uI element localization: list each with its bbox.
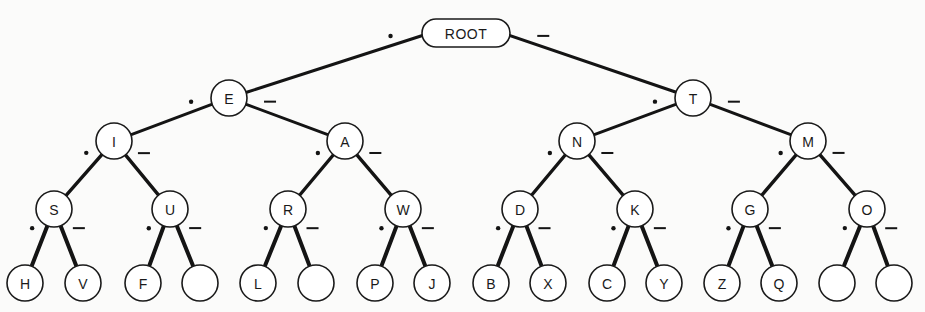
dot-symbol-icon (843, 226, 847, 230)
node-label: R (283, 202, 293, 218)
node-label: O (862, 202, 873, 218)
node-t: T (675, 80, 711, 116)
node-label: S (49, 202, 58, 218)
node-empty (182, 265, 218, 301)
node-label: A (340, 134, 350, 150)
edge-o-to-o_dash (873, 225, 888, 267)
node-circle (819, 265, 855, 301)
node-label: Q (774, 276, 785, 292)
edge-root-to-t (508, 35, 677, 93)
node-b: B (473, 265, 509, 301)
dash-symbol-icon (73, 227, 85, 229)
dot-symbol-icon (189, 99, 193, 103)
edge-e-to-i (130, 104, 213, 135)
node-r: R (270, 191, 306, 227)
edge-root-to-e (245, 35, 424, 93)
node-label: K (630, 202, 640, 218)
edge-w-to-p (381, 225, 397, 267)
node-w: W (385, 191, 421, 227)
node-label: L (254, 276, 262, 292)
node-q: Q (761, 265, 797, 301)
node-label: W (396, 202, 410, 218)
node-label: G (745, 202, 756, 218)
edge-u-to-f (149, 225, 164, 267)
edge-i-to-u (125, 154, 159, 196)
node-circle (182, 265, 218, 301)
node-empty (298, 265, 334, 301)
node-label: C (602, 276, 612, 292)
edge-a-to-r (299, 154, 334, 196)
dash-symbol-icon (728, 101, 740, 103)
node-empty (819, 265, 855, 301)
node-label: D (515, 202, 525, 218)
dash-symbol-icon (264, 101, 276, 103)
node-label: X (543, 276, 553, 292)
root-node: ROOT (422, 19, 510, 47)
edge-w-to-j (409, 225, 426, 267)
edge-d-to-b (497, 225, 514, 267)
node-circle (298, 265, 334, 301)
node-label: T (689, 91, 698, 107)
node-m: M (790, 123, 826, 159)
node-p: P (357, 265, 393, 301)
node-label: Y (659, 276, 669, 292)
edge-s-to-v (60, 225, 77, 267)
edge-g-to-z (728, 225, 744, 267)
node-s: S (36, 191, 72, 227)
node-label: I (112, 134, 116, 150)
dash-symbol-icon (885, 227, 897, 229)
node-x: X (530, 265, 566, 301)
node-d: D (502, 191, 538, 227)
edge-t-to-m (709, 104, 792, 135)
edge-e-to-a (245, 104, 329, 135)
node-k: K (617, 191, 653, 227)
node-c: C (589, 265, 625, 301)
dot-symbol-icon (264, 226, 268, 230)
node-label: J (429, 276, 436, 292)
node-label: N (572, 134, 582, 150)
node-l: L (240, 265, 276, 301)
dash-symbol-icon (138, 152, 150, 154)
dot-symbol-icon (653, 99, 657, 103)
node-label: H (20, 276, 30, 292)
edge-m-to-o (819, 154, 856, 196)
node-label: V (78, 276, 88, 292)
node-label: B (486, 276, 495, 292)
dot-symbol-icon (548, 151, 552, 155)
dot-symbol-icon (30, 226, 34, 230)
edge-g-to-q (756, 225, 773, 267)
dot-symbol-icon (726, 226, 730, 230)
dot-symbol-icon (379, 226, 383, 230)
dash-symbol-icon (769, 227, 781, 229)
dot-symbol-icon (388, 34, 392, 38)
node-label: U (165, 202, 175, 218)
node-label: M (802, 134, 814, 150)
dash-symbol-icon (189, 227, 201, 229)
dash-symbol-icon (654, 227, 666, 229)
edge-k-to-c (613, 225, 629, 267)
tree-edges (31, 35, 888, 267)
node-label: P (370, 276, 379, 292)
tree-nodes: ETIANMSURWDKGOHVFLPJBXCYZQ (7, 80, 912, 301)
node-g: G (732, 191, 768, 227)
dot-symbol-icon (778, 151, 782, 155)
node-z: Z (704, 265, 740, 301)
node-circle (876, 265, 912, 301)
root-label: ROOT (445, 26, 487, 42)
dot-symbol-icon (84, 151, 88, 155)
edge-k-to-y (641, 225, 658, 267)
dash-symbol-icon (369, 152, 381, 154)
node-o: O (849, 191, 885, 227)
edge-d-to-x (526, 225, 542, 267)
edge-t-to-n (593, 104, 677, 135)
dot-symbol-icon (611, 226, 615, 230)
dot-symbol-icon (496, 226, 500, 230)
node-label: Z (718, 276, 727, 292)
node-j: J (414, 265, 450, 301)
node-v: V (65, 265, 101, 301)
edge-n-to-k (588, 154, 624, 196)
dash-symbol-icon (537, 35, 549, 37)
edge-i-to-s (65, 154, 103, 197)
node-e: E (211, 80, 247, 116)
node-label: F (139, 276, 148, 292)
